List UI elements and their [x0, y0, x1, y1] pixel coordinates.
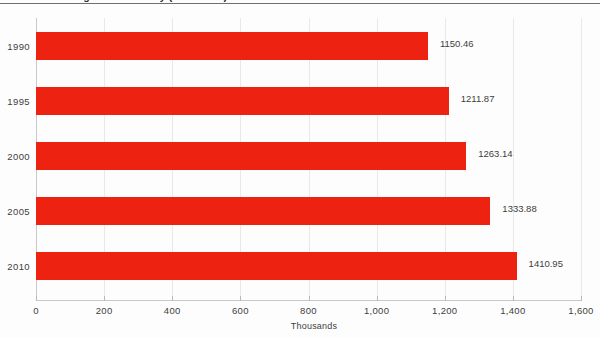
x-tick-label-600: 600: [210, 305, 270, 316]
plot-area: 1150.461211.871263.141333.881410.95: [36, 18, 581, 300]
bar-2000[interactable]: [36, 142, 466, 170]
x-tick-mark: [445, 296, 446, 301]
bar-1990[interactable]: [36, 32, 428, 60]
x-tick-label-1,600: 1,600: [551, 305, 600, 316]
bar-2005[interactable]: [36, 197, 490, 225]
x-tick-mark: [172, 296, 173, 301]
x-tick-label-800: 800: [279, 305, 339, 316]
x-tick-mark: [240, 296, 241, 301]
chart-title: International Migrants in Turkey (1990-2…: [4, 0, 424, 4]
bar-value-label-1995: 1211.87: [461, 93, 495, 104]
x-tick-label-1,400: 1,400: [483, 305, 543, 316]
y-tick-label-2010: 2010: [0, 261, 30, 272]
x-tick-mark: [104, 296, 105, 301]
x-tick-mark: [309, 296, 310, 301]
bar-row: 1263.14: [36, 128, 581, 183]
bar-row: 1410.95: [36, 238, 581, 293]
x-tick-mark: [513, 296, 514, 301]
y-tick-label-1995: 1995: [0, 96, 30, 107]
x-tick-label-1,200: 1,200: [415, 305, 475, 316]
x-tick-mark: [36, 296, 37, 301]
x-axis-title-wrap: Thousands: [0, 321, 600, 331]
x-tick-label-1,000: 1,000: [347, 305, 407, 316]
x-tick-mark: [581, 296, 582, 301]
y-tick-label-2000: 2000: [0, 151, 30, 162]
bar-row: 1150.46: [36, 18, 581, 73]
bar-2010[interactable]: [36, 252, 517, 280]
x-tick-label-400: 400: [142, 305, 202, 316]
gridline: [581, 18, 582, 300]
bar-value-label-2000: 1263.14: [478, 148, 512, 159]
bar-value-label-1990: 1150.46: [440, 38, 474, 49]
x-axis-title: Thousands: [291, 321, 337, 331]
x-tick-label-200: 200: [74, 305, 134, 316]
bar-row: 1211.87: [36, 73, 581, 128]
y-tick-label-2005: 2005: [0, 206, 30, 217]
bar-value-label-2010: 1410.95: [529, 258, 563, 269]
x-tick-label-0: 0: [6, 305, 66, 316]
bar-1995[interactable]: [36, 87, 449, 115]
bar-value-label-2005: 1333.88: [502, 203, 536, 214]
bar-row: 1333.88: [36, 183, 581, 238]
bar-chart-figure: International Migrants in Turkey (1990-2…: [0, 0, 600, 338]
x-tick-mark: [377, 296, 378, 301]
y-tick-label-1990: 1990: [0, 41, 30, 52]
